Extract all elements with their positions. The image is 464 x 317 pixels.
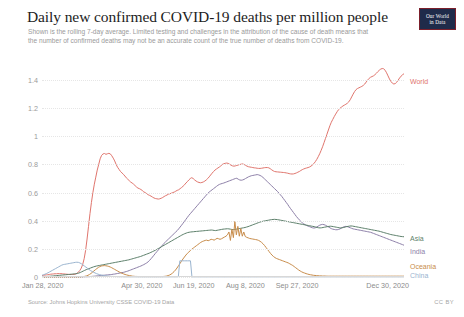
gridline (42, 193, 404, 195)
page-title: Daily new confirmed COVID-19 deaths per … (27, 8, 388, 26)
y-axis: 00.20.40.60.811.21.4 (0, 66, 38, 277)
y-axis-tick-label: 0.4 (0, 216, 38, 225)
x-axis-tick-label: Apr 30, 2020 (121, 281, 162, 290)
y-axis-tick-label: 0.6 (0, 188, 38, 197)
x-axis-tick-label: Jan 28, 2020 (22, 281, 64, 290)
license-note[interactable]: CC BY (434, 299, 454, 305)
series-label-world[interactable]: World (410, 78, 428, 85)
plot-area (42, 66, 404, 277)
x-axis-tick-label: Sep 27, 2020 (276, 281, 319, 290)
y-axis-tick-label: 1.4 (0, 76, 38, 85)
gridline (42, 108, 404, 110)
y-axis-tick-label: 1 (0, 132, 38, 141)
gridline (42, 221, 404, 223)
y-axis-tick-label: 0.2 (0, 244, 38, 253)
gridline (42, 249, 404, 251)
gridline (42, 80, 404, 82)
series-label-india[interactable]: India (410, 248, 425, 255)
series-lines (42, 66, 404, 277)
series-label-china[interactable]: China (410, 272, 428, 279)
series-label-oceania[interactable]: Oceania (410, 263, 436, 270)
gridline (42, 136, 404, 138)
gridline (42, 164, 404, 166)
our-world-in-data-logo[interactable]: Our World in Data (419, 8, 456, 30)
source-note: Source: Johns Hopkins University CSSE CO… (28, 299, 174, 305)
x-axis-baseline (42, 276, 404, 277)
gridline (42, 277, 404, 279)
x-axis-tick-label: Aug 8, 2020 (226, 281, 265, 290)
y-axis-tick-label: 0.8 (0, 160, 38, 169)
logo-line-2: in Data (430, 19, 446, 25)
x-axis-tick-label: Jun 19, 2020 (173, 281, 215, 290)
chart-root: Daily new confirmed COVID-19 deaths per … (0, 0, 464, 317)
x-axis-tick-label: Dec 30, 2020 (366, 281, 409, 290)
series-line-world (42, 69, 404, 276)
series-label-asia[interactable]: Asia (410, 235, 424, 242)
chart-subtitle: Shown is the rolling 7-day average. Limi… (28, 27, 373, 45)
y-axis-tick-label: 1.2 (0, 104, 38, 113)
